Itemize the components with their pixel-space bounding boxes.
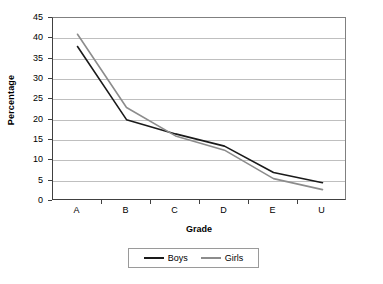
legend-label: Girls (225, 254, 244, 263)
x-tick-mark (248, 200, 249, 204)
legend-swatch-girls (201, 257, 221, 259)
y-tick-label: 35 (15, 54, 43, 63)
series-lines (53, 18, 347, 201)
x-tick-label: B (101, 206, 150, 215)
x-tick-mark (297, 200, 298, 204)
y-tick-label: 0 (15, 196, 43, 205)
y-tick-label: 40 (15, 33, 43, 42)
line-chart: Percentage 051015202530354045 ABCDEU Gra… (0, 0, 383, 284)
legend-label: Boys (168, 254, 188, 263)
x-tick-label: C (150, 206, 199, 215)
x-tick-label: E (248, 206, 297, 215)
series-line-boys (78, 46, 323, 182)
x-tick-label: U (297, 206, 346, 215)
legend-swatch-boys (144, 257, 164, 259)
legend-entry-girls[interactable]: Girls (201, 254, 244, 263)
y-tick-mark (48, 200, 52, 201)
x-tick-label: D (199, 206, 248, 215)
y-tick-label: 25 (15, 94, 43, 103)
y-tick-label: 45 (15, 13, 43, 22)
y-tick-label: 20 (15, 115, 43, 124)
plot-area (52, 17, 346, 200)
x-axis-title: Grade (52, 224, 346, 234)
chart-legend: BoysGirls (128, 248, 259, 268)
series-line-girls (78, 34, 323, 189)
y-tick-label: 30 (15, 74, 43, 83)
y-tick-label: 10 (15, 155, 43, 164)
x-tick-mark (101, 200, 102, 204)
x-tick-mark (150, 200, 151, 204)
y-tick-label: 15 (15, 135, 43, 144)
plot-inner (53, 18, 345, 199)
x-tick-label: A (52, 206, 101, 215)
legend-entry-boys[interactable]: Boys (144, 254, 188, 263)
x-tick-mark (199, 200, 200, 204)
y-tick-label: 5 (15, 176, 43, 185)
